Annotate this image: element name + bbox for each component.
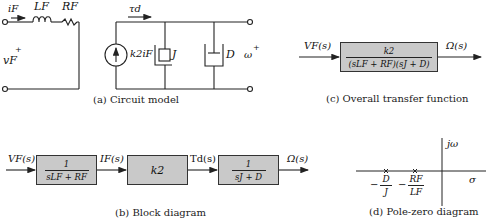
caption-pole-zero: (d) Pole-zero diagram xyxy=(369,206,479,217)
damper-label: D xyxy=(226,48,235,61)
block-numerator: 1 xyxy=(64,159,69,169)
pole2-label: RF LF xyxy=(408,174,424,197)
inductor-label: LF xyxy=(34,0,49,13)
signal-omega: Ω(s) xyxy=(287,153,308,164)
voltage-sign: + xyxy=(15,45,22,54)
pole2-denominator: LF xyxy=(408,187,424,197)
fraction-bar xyxy=(408,185,424,186)
block-gain-label: k2 xyxy=(151,164,165,177)
fraction-bar xyxy=(45,170,89,171)
pole1-numerator: D xyxy=(380,174,392,184)
transfer-function-block: k2 (sLF + RF)(sJ + D) xyxy=(340,42,438,72)
pole2-numerator: RF xyxy=(408,174,424,184)
terminal-top-left xyxy=(3,20,8,25)
block-gain: k2 xyxy=(127,155,188,185)
inertia-label: J xyxy=(172,48,176,61)
resistor-icon xyxy=(62,19,77,25)
imag-axis-label: jω xyxy=(447,138,458,149)
inertia-icon xyxy=(159,49,170,61)
signal-td: Td(s) xyxy=(190,153,216,164)
pole1-denominator: J xyxy=(380,187,392,197)
terminal-bottom-right xyxy=(248,87,253,92)
caption-block-diagram: (b) Block diagram xyxy=(115,207,206,218)
tf-input-label: VF(s) xyxy=(304,40,331,51)
resistor-label: RF xyxy=(62,0,78,13)
omega-sign: + xyxy=(253,43,260,52)
signal-vf: VF(s) xyxy=(8,153,35,164)
pole1-sign: − xyxy=(370,174,378,196)
caption-circuit-model: (a) Circuit model xyxy=(93,94,179,105)
caption-transfer-function: (c) Overall transfer function xyxy=(326,93,468,104)
terminal-top-right xyxy=(248,20,253,25)
block-numerator: 1 xyxy=(246,159,251,169)
block-denominator: sLF + RF xyxy=(46,172,87,182)
terminal-bottom-left xyxy=(3,87,8,92)
tf-numerator: k2 xyxy=(384,46,395,56)
tf-denominator: (sLF + RF)(sJ + D) xyxy=(348,59,429,69)
voltage-label: vF xyxy=(3,54,17,67)
signal-if: IF(s) xyxy=(100,153,124,164)
block-mechanical: 1 sJ + D xyxy=(218,155,279,185)
pole2-sign: − xyxy=(398,174,406,196)
pole1-label: D J xyxy=(380,174,392,197)
inductor-icon xyxy=(33,17,51,22)
fraction-bar xyxy=(380,185,392,186)
block-electrical: 1 sLF + RF xyxy=(36,155,97,185)
tf-output-label: Ω(s) xyxy=(446,40,467,51)
torque-label: τd xyxy=(129,3,141,14)
block-denominator: sJ + D xyxy=(235,172,262,182)
source-label: k2iF xyxy=(130,48,153,59)
fraction-bar xyxy=(232,170,266,171)
real-axis-label: σ xyxy=(469,174,476,185)
current-label: iF xyxy=(8,3,18,14)
omega-label: ω xyxy=(244,49,252,60)
fraction-bar xyxy=(346,57,432,58)
